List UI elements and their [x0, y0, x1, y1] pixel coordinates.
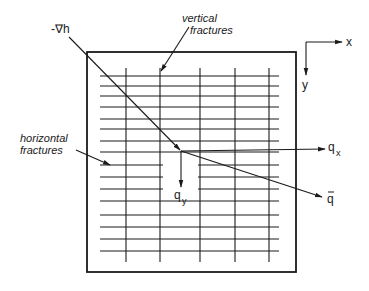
vertical-fractures-leader [161, 27, 189, 71]
horizontal-fractures-label-line1: horizontal [20, 132, 68, 144]
qy-label: q [174, 188, 181, 202]
horizontal-fractures [100, 76, 279, 251]
coordinate-axes [306, 42, 342, 75]
qx-subscript: x [336, 148, 341, 158]
axis-y-label: y [302, 78, 308, 92]
q-vector-label: q [327, 192, 334, 206]
vertical-fractures-label-line1: vertical [182, 12, 217, 24]
qy-subscript: y [182, 196, 187, 206]
horizontal-fractures-label-line2: fractures [20, 144, 63, 156]
gradient-label: -∇h [51, 22, 70, 36]
gradient-arrow [69, 37, 180, 150]
qx-arrow [181, 149, 325, 151]
qx-label: q [328, 140, 335, 154]
vertical-fractures-label-line2: fractures [190, 24, 233, 36]
q-vector-arrow [181, 151, 322, 197]
axis-x-label: x [346, 35, 352, 49]
fracture-flow-diagram: -∇h vertical fractures horizontal fractu… [0, 0, 369, 291]
